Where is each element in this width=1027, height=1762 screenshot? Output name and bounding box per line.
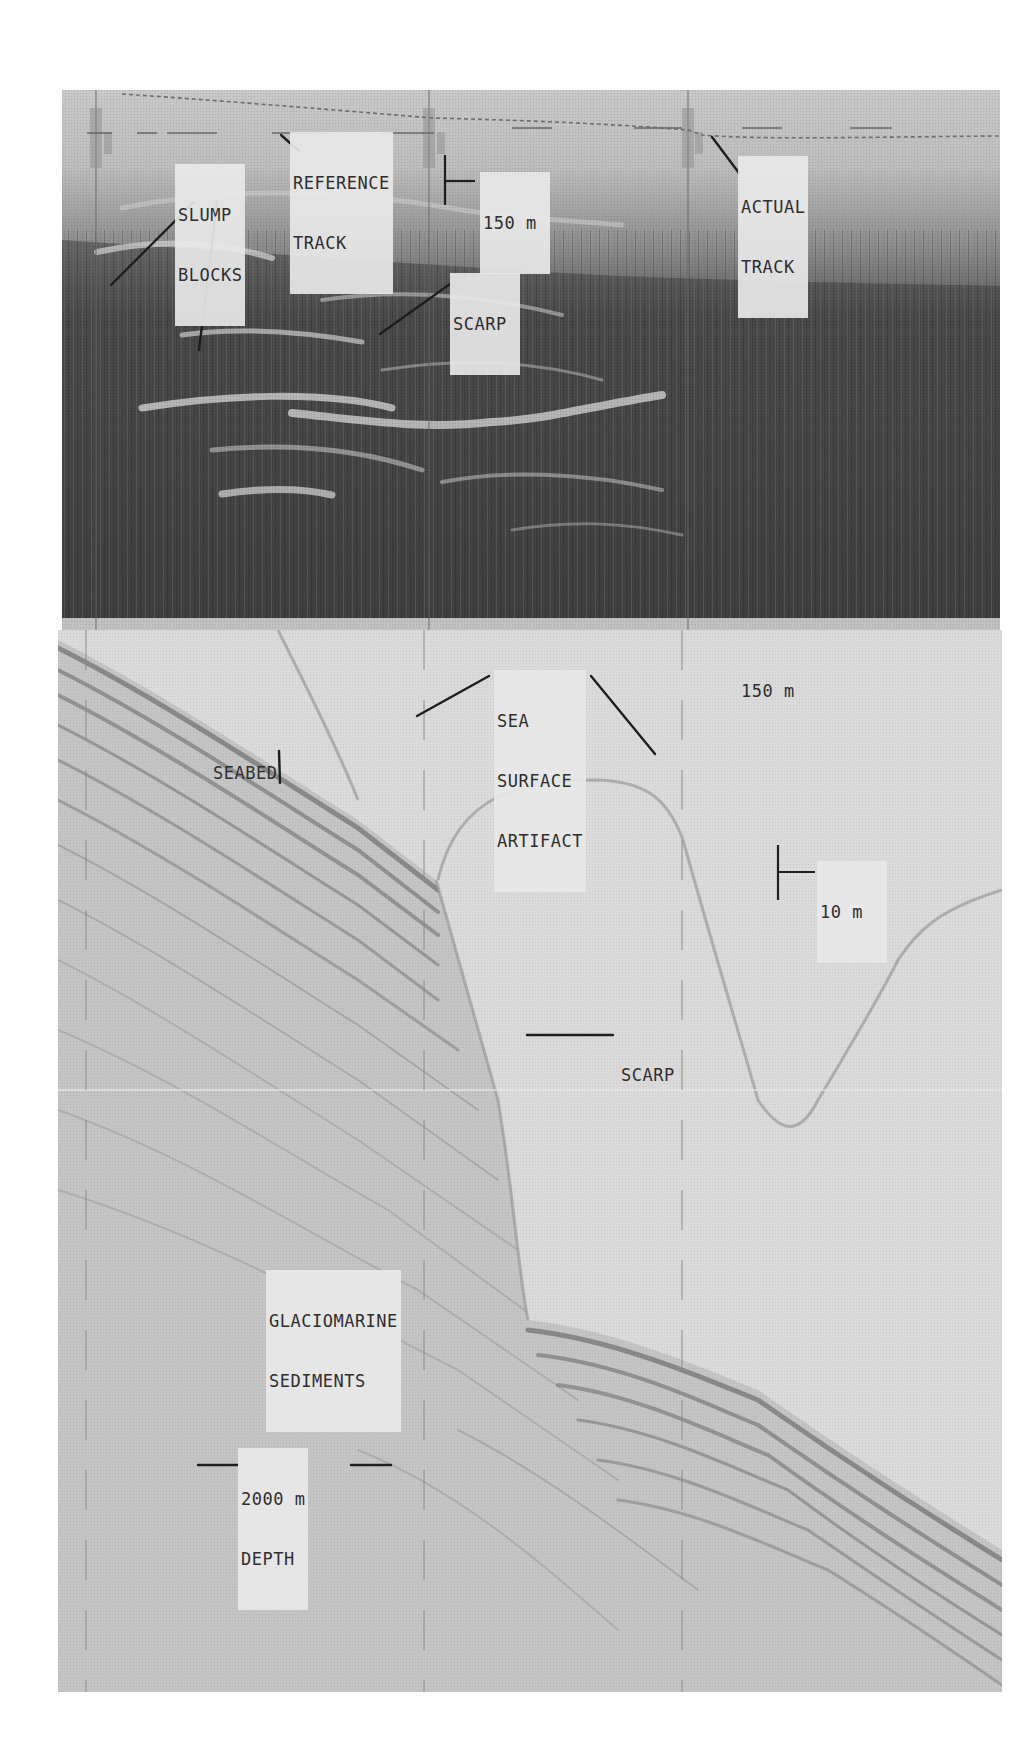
sub-bottom-profile-panel: SEABED SEA SURFACE ARTIFACT 10 m SCARP G… xyxy=(58,630,1002,1692)
slump-blocks-label: SLUMP BLOCKS xyxy=(175,164,245,326)
actual-track-label: ACTUAL TRACK xyxy=(738,156,808,318)
reference-track-label: REFERENCE TRACK xyxy=(290,132,393,294)
bottom-scale-150m-text: 150 m xyxy=(741,681,795,701)
depth-scale-line2: DEPTH xyxy=(241,1549,305,1569)
slump-blocks-label-line1: SLUMP xyxy=(178,205,242,225)
seabed-label: SEABED xyxy=(210,722,280,824)
depth-scale-label: 2000 m DEPTH xyxy=(238,1448,308,1610)
top-scale-150m-label: 150 m xyxy=(480,172,550,274)
actual-track-label-line1: ACTUAL xyxy=(741,197,805,217)
sonar-figure: SLUMP BLOCKS REFERENCE TRACK ACTUAL TRAC… xyxy=(0,0,1027,1762)
glaciomarine-sediments-line2: SEDIMENTS xyxy=(269,1371,398,1391)
side-scan-sonar-panel: SLUMP BLOCKS REFERENCE TRACK ACTUAL TRAC… xyxy=(62,90,1000,630)
bottom-scale-10m-label: 10 m xyxy=(817,861,887,963)
top-scale-150m-text: 150 m xyxy=(483,213,547,233)
actual-track-label-line2: TRACK xyxy=(741,257,805,277)
bottom-scarp-label-text: SCARP xyxy=(621,1065,685,1085)
depth-scale-line1: 2000 m xyxy=(241,1489,305,1509)
slump-blocks-label-line2: BLOCKS xyxy=(178,265,242,285)
seabed-label-text: SEABED xyxy=(213,763,277,783)
bottom-scarp-label: SCARP xyxy=(618,1024,688,1126)
sea-surface-artifact-line1: SEA xyxy=(497,711,583,731)
top-scarp-label: SCARP xyxy=(450,273,520,375)
glaciomarine-sediments-line1: GLACIOMARINE xyxy=(269,1311,398,1331)
sea-surface-artifact-line3: ARTIFACT xyxy=(497,831,583,851)
bottom-scale-10m-text: 10 m xyxy=(820,902,884,922)
bottom-scale-150m-label: 150 m xyxy=(738,640,798,742)
top-scarp-label-text: SCARP xyxy=(453,314,517,334)
reference-track-label-line1: REFERENCE xyxy=(293,173,390,193)
sea-surface-artifact-line2: SURFACE xyxy=(497,771,583,791)
glaciomarine-sediments-label: GLACIOMARINE SEDIMENTS xyxy=(266,1270,401,1432)
reference-track-label-line2: TRACK xyxy=(293,233,390,253)
sea-surface-artifact-label: SEA SURFACE ARTIFACT xyxy=(494,670,586,892)
